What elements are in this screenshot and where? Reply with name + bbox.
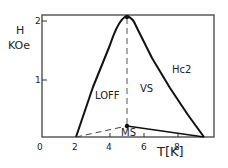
ms-dashed-boundary [76, 126, 127, 137]
hc2-curve [76, 16, 204, 137]
peak-point [125, 15, 129, 19]
y-axis-label-unit: KOe [8, 41, 30, 51]
y-tick-label-1: 1 [35, 75, 41, 85]
loff-region-label: LOFF [95, 91, 120, 101]
x-tick-label-0: 0 [37, 142, 43, 152]
plot-frame [42, 15, 214, 137]
x-tick-label-2: 2 [72, 142, 78, 152]
y-tick-label-2: 2 [35, 16, 41, 26]
x-tick-label-8: 8 [174, 142, 180, 152]
y-axis-label-h: H [16, 26, 24, 36]
ms-solid-boundary [127, 126, 204, 137]
x-tick-label-6: 6 [141, 142, 147, 152]
vs-region-label: VS [140, 84, 153, 94]
hc2-annotation: Hc2 [172, 65, 191, 75]
ms-region-label: MS [121, 128, 136, 138]
x-tick-label-4: 4 [106, 142, 112, 152]
